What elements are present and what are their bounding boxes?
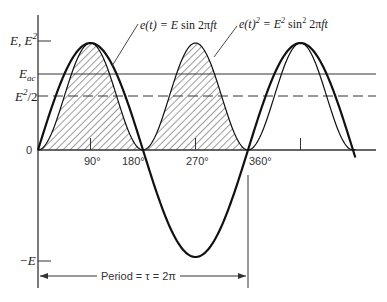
period-label: Period = τ = 2π	[101, 270, 176, 282]
y-label-neg-e: −E	[19, 253, 36, 268]
y-label-eac: Eac	[18, 66, 35, 83]
x-label-360: 360°	[249, 155, 272, 167]
annotation-sine: e(t) = E sin 2πft	[140, 18, 217, 32]
x-label-270: 270°	[186, 155, 209, 167]
y-label-e-e2: E, E2	[9, 31, 37, 48]
hatched-area	[38, 40, 248, 150]
y-label-zero: 0	[26, 144, 32, 156]
leader-sin	[112, 24, 138, 66]
leader-sin2	[214, 26, 237, 57]
annotation-sine-squared: e(t)2 = E2 sin2 2πft	[239, 16, 329, 31]
x-label-180: 180°	[122, 155, 145, 167]
x-label-90: 90°	[84, 155, 101, 167]
waveform-figure: e(t) = E sin 2πft e(t)2 = E2 sin2 2πft E…	[0, 0, 387, 302]
y-label-half-e2: E2/2	[14, 87, 38, 104]
